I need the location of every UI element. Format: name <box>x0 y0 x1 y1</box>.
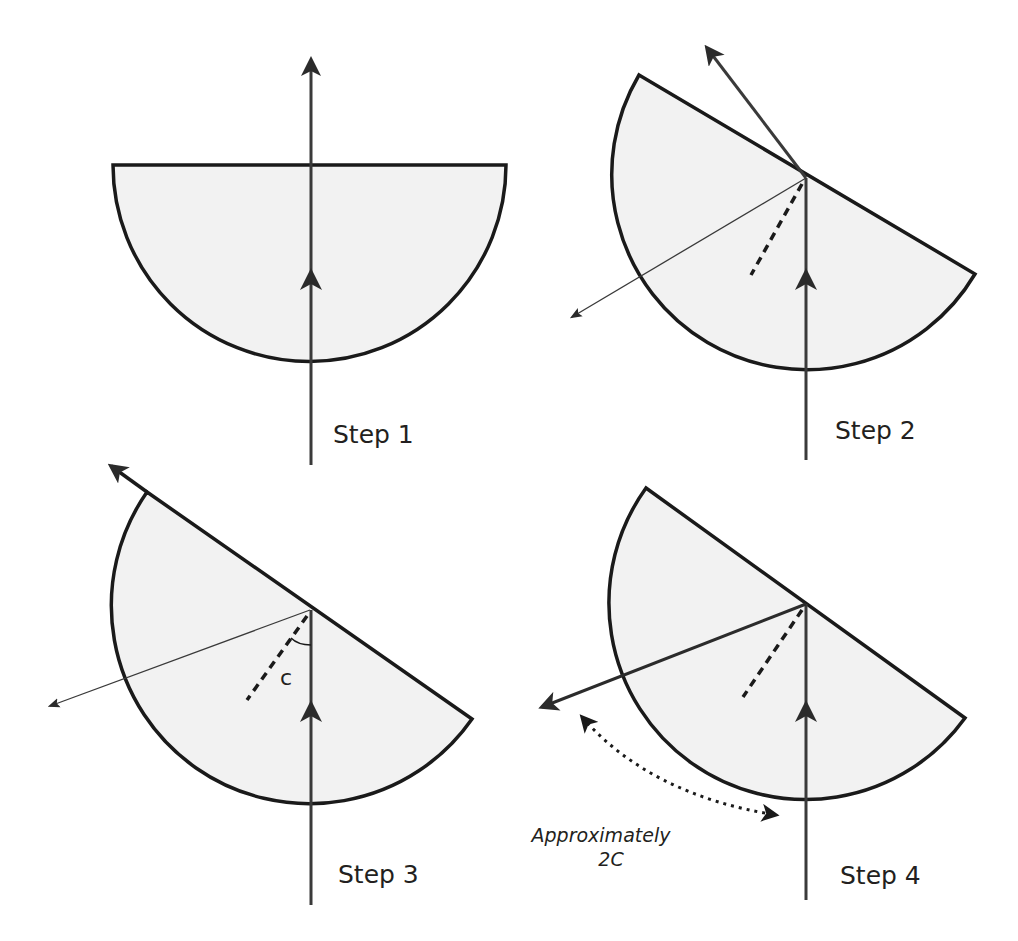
critical-angle-label: c <box>280 665 292 690</box>
deviation-annotation-line2: 2C <box>598 848 624 870</box>
grazing-refracted-ray <box>111 466 147 492</box>
step-label: Step 4 <box>840 861 921 890</box>
step-label: Step 3 <box>338 860 419 889</box>
semicircle-prism <box>111 492 472 804</box>
step-label: Step 2 <box>835 416 916 445</box>
panel-step3: c Step 3 <box>50 466 472 905</box>
step-label: Step 1 <box>333 420 414 449</box>
semicircle-prism <box>612 75 975 370</box>
semicircle-prism <box>609 488 965 800</box>
panel-step1: Step 1 <box>113 60 506 465</box>
panel-step2: Step 2 <box>572 48 975 460</box>
panel-step4: Approximately 2C Step 4 <box>530 488 965 900</box>
refraction-steps-diagram: Step 1 Step 2 c Step 3 Approximately 2C … <box>0 0 1018 941</box>
deviation-annotation-line1: Approximately <box>530 824 672 846</box>
